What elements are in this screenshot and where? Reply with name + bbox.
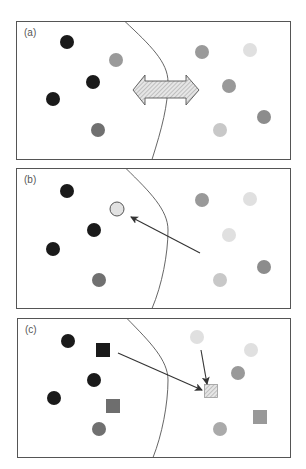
data-point-circle	[243, 43, 257, 57]
data-point-circle	[46, 242, 60, 256]
data-point-circle	[213, 422, 227, 436]
panel-a: (a)	[17, 22, 291, 160]
panel-c: (c)	[18, 319, 291, 458]
panel-a-label: (a)	[24, 27, 36, 38]
diagram-canvas: (a) (b) (c)	[0, 0, 306, 469]
data-point-circle	[60, 184, 74, 198]
data-point-circle	[243, 192, 257, 206]
data-point-circle	[91, 123, 105, 137]
combined-point-square	[205, 385, 218, 398]
data-point-circle	[231, 366, 245, 380]
data-point-circle	[87, 373, 101, 387]
data-point-circle	[195, 193, 209, 207]
data-point-circle	[87, 223, 101, 237]
data-point-circle	[46, 92, 60, 106]
moved-point-circle	[110, 202, 124, 216]
data-point-circle	[222, 228, 236, 242]
panel-c-label: (c)	[25, 324, 37, 335]
panel-b-frame	[17, 169, 291, 309]
panel-b-label: (b)	[24, 174, 36, 185]
data-point-circle	[92, 273, 106, 287]
data-point-circle	[47, 391, 61, 405]
data-point-circle	[213, 123, 227, 137]
data-point-circle	[190, 330, 204, 344]
data-point-circle	[257, 110, 271, 124]
data-point-circle	[109, 53, 123, 67]
data-point-circle	[213, 273, 227, 287]
data-point-circle	[244, 343, 258, 357]
data-point-circle	[222, 79, 236, 93]
data-point-circle	[92, 422, 106, 436]
data-point-circle	[60, 35, 74, 49]
data-point-square	[106, 399, 120, 413]
panel-c-frame	[18, 319, 291, 458]
panel-b: (b)	[17, 169, 291, 309]
data-point-square	[253, 410, 267, 424]
data-point-circle	[86, 75, 100, 89]
data-point-circle	[61, 334, 75, 348]
data-point-circle	[257, 260, 271, 274]
data-point-circle	[195, 45, 209, 59]
data-point-square	[96, 343, 110, 357]
